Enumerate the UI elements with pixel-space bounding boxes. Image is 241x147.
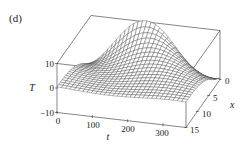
x-tick-0: 0 <box>225 76 230 86</box>
x-tick-5: 5 <box>213 93 218 103</box>
x-axis-label: x <box>229 99 235 110</box>
t-tick-0: 0 <box>56 116 61 126</box>
T-tick-neg10: −10 <box>40 108 55 118</box>
t-tick-200: 200 <box>121 124 135 134</box>
t-tick-100: 100 <box>86 120 100 130</box>
t-axis: 0 100 200 300 t <box>56 116 170 142</box>
T-axis-label: T <box>29 82 36 93</box>
t-tick-300: 300 <box>155 128 169 138</box>
x-tick-10: 10 <box>202 109 212 119</box>
t-axis-label: t <box>107 131 110 142</box>
T-tick-0: 0 <box>50 83 55 93</box>
x-tick-15: 15 <box>190 125 200 135</box>
surface-mesh <box>57 21 220 102</box>
T-axis: 10 0 −10 T <box>29 59 54 118</box>
T-tick-10: 10 <box>45 59 55 69</box>
surface-plot: (d) 10 0 −10 T 0 100 200 300 t 0 5 10 15… <box>0 0 241 147</box>
panel-label: (d) <box>9 12 22 25</box>
